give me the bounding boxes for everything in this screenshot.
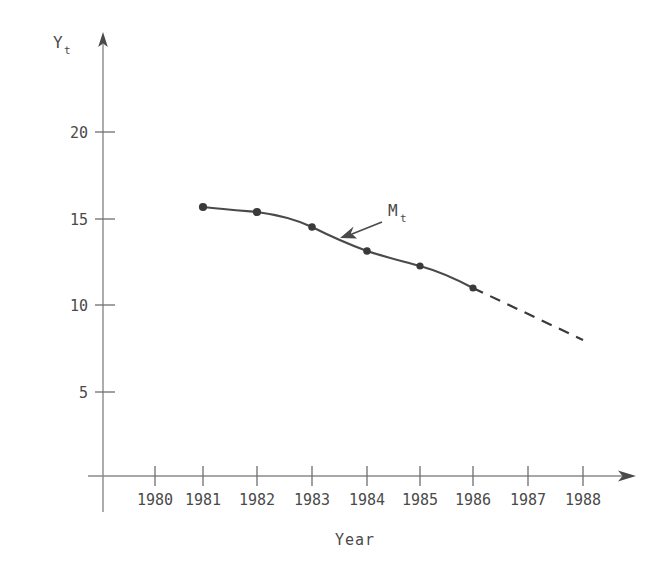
y-axis-label-main: Y: [53, 33, 63, 52]
annotation-label-subscript: t: [400, 212, 407, 225]
series-annotation: M t: [340, 201, 407, 239]
line-chart: 20 15 10 5 Y t 1980 1981 1982 1983 1984: [0, 0, 665, 570]
x-tick-label: 1987: [510, 491, 546, 509]
y-tick-label: 15: [70, 211, 88, 229]
y-axis-label: Y t: [53, 33, 71, 57]
x-tick-label: 1986: [455, 491, 491, 509]
data-point-marker: [308, 223, 316, 231]
chart-container: 20 15 10 5 Y t 1980 1981 1982 1983 1984: [0, 0, 665, 570]
x-tick-label: 1984: [349, 491, 385, 509]
data-point-marker: [363, 247, 371, 255]
series-line-forecast: [473, 288, 583, 340]
data-point-marker: [253, 208, 261, 216]
x-tick-label: 1983: [294, 491, 330, 509]
axes-group: [88, 32, 636, 512]
y-axis-label-subscript: t: [64, 44, 71, 57]
y-tick-label: 20: [70, 124, 88, 142]
series-markers: [199, 203, 477, 292]
x-tick-label: 1981: [185, 491, 221, 509]
x-tick-label: 1988: [565, 491, 601, 509]
x-tick-label: 1982: [239, 491, 275, 509]
annotation-arrow-line: [352, 222, 382, 234]
data-point-marker: [199, 203, 207, 211]
x-tick-label: 1985: [402, 491, 438, 509]
y-axis-ticks: 20 15 10 5: [70, 124, 115, 402]
data-point-marker: [469, 284, 476, 291]
x-axis-ticks: 1980 1981 1982 1983 1984 1985 1986 1987 …: [137, 466, 601, 509]
data-point-marker: [416, 262, 423, 269]
annotation-label-main: M: [388, 201, 398, 220]
y-tick-label: 10: [70, 297, 88, 315]
x-axis-title: Year: [335, 531, 375, 549]
y-tick-label: 5: [79, 384, 88, 402]
series-line-observed: [203, 207, 473, 288]
x-tick-label: 1980: [137, 491, 173, 509]
